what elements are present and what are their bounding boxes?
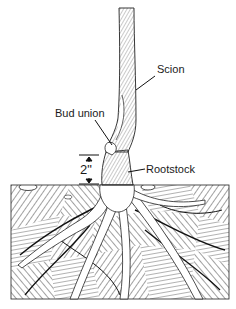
bud-union-leader <box>95 120 112 145</box>
height-measure-label: 2" <box>80 163 92 177</box>
scion-leader <box>136 76 155 90</box>
scion-label: Scion <box>157 63 185 75</box>
grafted-tree-illustration <box>0 0 236 309</box>
rootstock <box>102 150 133 185</box>
rootstock-label: Rootstock <box>146 163 195 175</box>
bud-union-label: Bud union <box>55 107 105 119</box>
scion-stem <box>106 8 136 152</box>
